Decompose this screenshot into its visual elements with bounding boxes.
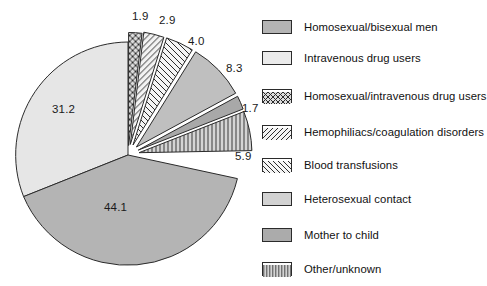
- legend-item-other-unknown[interactable]: Other/unknown: [262, 261, 381, 276]
- legend-item-homosexual-bisexual-men[interactable]: Homosexual/bisexual men: [262, 19, 438, 34]
- legend-label: Heterosexual contact: [304, 193, 411, 205]
- legend-label: Other/unknown: [304, 263, 381, 275]
- legend-item-mother-to-child[interactable]: Mother to child: [262, 227, 379, 242]
- slice-value-44-1: 44.1: [104, 201, 127, 213]
- legend-swatch-diagonal-down-icon: [262, 158, 292, 172]
- legend-swatch-solid-icon: [262, 228, 292, 242]
- legend-item-blood-transfusions[interactable]: Blood transfusions: [262, 157, 398, 172]
- slice-value-4-0: 4.0: [188, 35, 205, 47]
- legend-item-intravenous-drug-users[interactable]: Intravenous drug users: [262, 50, 421, 65]
- legend-item-heterosexual-contact[interactable]: Heterosexual contact: [262, 191, 411, 206]
- legend-swatch-solid-icon: [262, 20, 292, 34]
- chart-legend: Homosexual/bisexual men Intravenous drug…: [262, 0, 482, 286]
- legend-label: Intravenous drug users: [304, 52, 421, 64]
- legend-label: Hemophiliacs/coagulation disorders: [304, 126, 484, 138]
- legend-swatch-crosshatch-icon: [262, 89, 292, 103]
- legend-item-hemophiliacs-coagulation-disorders[interactable]: Hemophiliacs/coagulation disorders: [262, 124, 484, 139]
- slice-value-2-9: 2.9: [159, 14, 176, 26]
- legend-swatch-vertical-lines-icon: [262, 262, 292, 276]
- legend-label: Homosexual/bisexual men: [304, 21, 438, 33]
- legend-label: Blood transfusions: [304, 159, 398, 171]
- slice-value-1-9: 1.9: [132, 10, 149, 22]
- legend-swatch-diagonal-up-icon: [262, 125, 292, 139]
- legend-swatch-solid-icon: [262, 192, 292, 206]
- legend-label: Mother to child: [304, 229, 379, 241]
- slice-value-31-2: 31.2: [52, 103, 75, 115]
- slice-value-1-7: 1.7: [242, 102, 259, 114]
- slice-value-8-3: 8.3: [226, 62, 243, 74]
- slice-value-5-9: 5.9: [235, 150, 252, 162]
- legend-label: Homosexual/intravenous drug users: [304, 90, 487, 102]
- legend-item-homosexual-intravenous-drug-users[interactable]: Homosexual/intravenous drug users: [262, 88, 487, 103]
- legend-swatch-solid-icon: [262, 51, 292, 65]
